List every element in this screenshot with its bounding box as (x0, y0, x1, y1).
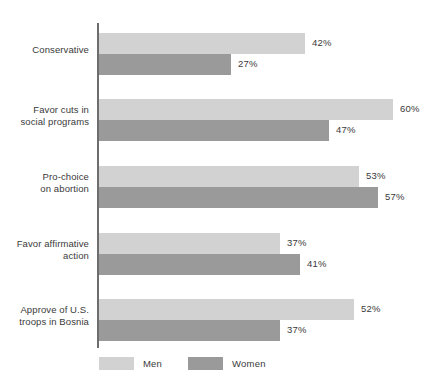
category-label: Conservative (0, 44, 89, 56)
bar-men (99, 233, 280, 254)
category-label: Favor affirmative action (0, 238, 89, 261)
bar-value-women: 27% (238, 58, 258, 69)
category-label-line: Approve of U.S. (0, 304, 89, 316)
legend-label-women: Women (232, 358, 266, 369)
bar-value-women: 41% (307, 258, 327, 269)
bar-value-men: 53% (366, 170, 386, 181)
category-label-line: Favor cuts in (0, 104, 89, 116)
category-label: Pro-choice on abortion (0, 171, 89, 194)
bar-women (99, 187, 378, 208)
legend-swatch-women-icon (188, 357, 223, 370)
bar-value-women: 57% (385, 191, 405, 202)
bar-value-men: 37% (287, 237, 307, 248)
bar-men (99, 166, 359, 187)
legend-label-men: Men (143, 358, 162, 369)
bar-value-men: 52% (361, 303, 381, 314)
bar-value-men: 60% (400, 103, 420, 114)
bar-value-women: 47% (336, 124, 356, 135)
category-label-line: Pro-choice (0, 171, 89, 183)
category-label: Approve of U.S. troops in Bosnia (0, 304, 89, 327)
bar-men (99, 99, 393, 120)
chart-legend: Men Women (99, 357, 292, 370)
bar-women (99, 254, 300, 275)
category-label-line: on abortion (0, 183, 89, 195)
bar-value-women: 37% (287, 324, 307, 335)
category-label-line: Favor affirmative (0, 238, 89, 250)
legend-swatch-men-icon (99, 357, 134, 370)
bar-chart: Conservative 42% 27% Favor cuts in socia… (0, 0, 436, 387)
category-label: Favor cuts in social programs (0, 104, 89, 127)
bar-women (99, 54, 231, 75)
category-label-line: Conservative (0, 44, 89, 56)
category-label-line: troops in Bosnia (0, 316, 89, 328)
category-label-line: social programs (0, 116, 89, 128)
bar-men (99, 33, 305, 54)
legend-item-men: Men (99, 357, 162, 370)
bar-women (99, 120, 329, 141)
bar-value-men: 42% (312, 37, 332, 48)
category-label-line: action (0, 250, 89, 262)
legend-item-women: Women (188, 357, 266, 370)
bar-women (99, 320, 280, 341)
bar-men (99, 299, 354, 320)
